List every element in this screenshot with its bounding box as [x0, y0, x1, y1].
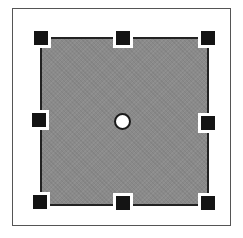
resize-handle-bottom-center[interactable] — [116, 196, 130, 210]
resize-handle-middle-left[interactable] — [32, 113, 46, 127]
center-rotation-point[interactable] — [114, 113, 131, 130]
resize-handle-top-center[interactable] — [116, 31, 130, 45]
resize-handle-bottom-left[interactable] — [33, 195, 47, 209]
diagram-canvas: rectangle — [0, 0, 243, 238]
resize-handle-top-left[interactable] — [34, 31, 48, 45]
resize-handle-middle-right[interactable] — [201, 116, 215, 130]
shape-kind-label: rectangle — [0, 0, 1, 1]
resize-handle-top-right[interactable] — [201, 31, 215, 45]
resize-handle-bottom-right[interactable] — [201, 196, 215, 210]
